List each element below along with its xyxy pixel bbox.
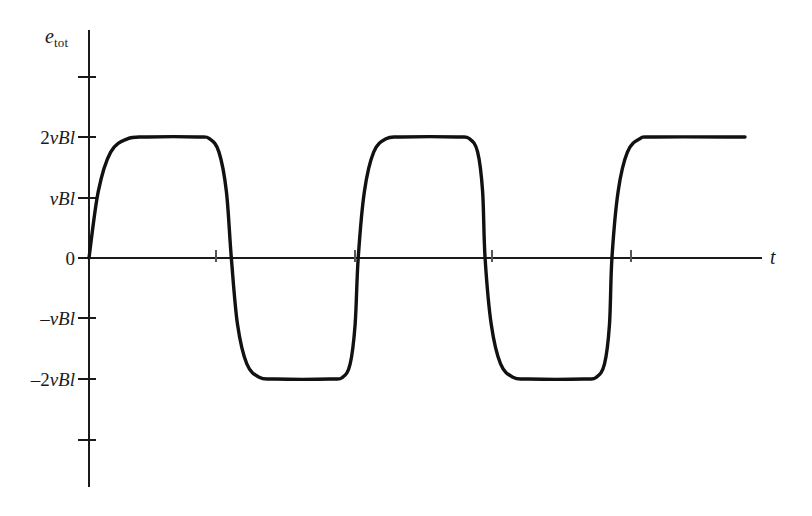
y-axis-label: etot (45, 26, 68, 46)
y-tick-label-neg-2vbl: –2vBl (31, 370, 75, 389)
y-tick-label-neg-2vbl-unit: vBl (50, 369, 75, 390)
y-tick-label-2vbl-prefix: 2 (40, 127, 50, 148)
y-tick-label-2vbl: 2vBl (40, 128, 75, 147)
axes-group (89, 30, 762, 487)
y-tick-label-vbl: vBl (50, 189, 75, 208)
y-tick-label-neg-2vbl-prefix: –2 (31, 369, 50, 390)
x-axis-label: t (770, 247, 776, 267)
y-tick-label-neg-vbl-prefix: – (40, 308, 50, 329)
x-axis-zero-crossing-ticks (216, 250, 631, 262)
y-tick-label-vbl-unit: vBl (50, 188, 75, 209)
y-axis-label-base: e (45, 25, 54, 47)
y-tick-label-zero-prefix: 0 (66, 248, 76, 269)
waveform-figure: 2vBl vBl 0 –vBl –2vBl etot t (0, 0, 812, 516)
y-axis-ticks (78, 77, 96, 440)
y-tick-label-neg-vbl-unit: vBl (50, 308, 75, 329)
y-tick-label-zero: 0 (66, 249, 76, 268)
y-axis-label-subscript: tot (54, 35, 68, 50)
y-tick-label-neg-vbl: –vBl (40, 309, 75, 328)
y-tick-label-2vbl-unit: vBl (50, 127, 75, 148)
waveform-plot (0, 0, 812, 516)
